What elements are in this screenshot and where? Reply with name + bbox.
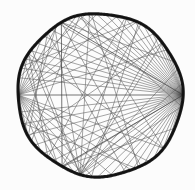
diagram-canvas	[0, 0, 195, 190]
circle-chords-figure	[0, 0, 195, 190]
